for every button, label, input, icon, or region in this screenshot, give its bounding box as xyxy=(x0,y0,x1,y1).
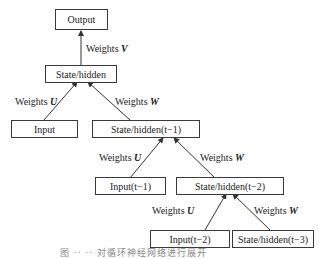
node-state-hidden: State/hidden xyxy=(45,65,117,83)
node-input-t1: Input(t−1) xyxy=(95,177,166,195)
node-state-t3-label: State/hidden(t−3) xyxy=(238,234,308,245)
node-input-t2-label: Input(t−2) xyxy=(169,234,210,245)
edge-label-w-1: Weights W xyxy=(115,96,159,107)
node-state-hidden-t1: State/hidden(t−1) xyxy=(92,120,200,138)
node-input-t1-label: Input(t−1) xyxy=(110,181,151,192)
node-state-t1-label: State/hidden(t−1) xyxy=(111,124,181,135)
edge-label-w-2: Weights W xyxy=(200,152,244,163)
node-state-label: State/hidden xyxy=(56,69,106,80)
edge-label-u-3: Weights U xyxy=(152,205,194,216)
edge-input-t2-to-state-t2 xyxy=(205,194,226,230)
edge-label-v: Weights V xyxy=(86,43,128,54)
figure-caption: 图 ·· ·· 对循环神经网络进行展开 xyxy=(60,246,207,259)
edge-label-w-3: Weights W xyxy=(254,205,298,216)
edge-label-u-1: Weights U xyxy=(15,96,57,107)
edge-label-u-2: Weights U xyxy=(99,152,141,163)
node-input-label: Input xyxy=(34,124,55,135)
node-input: Input xyxy=(11,120,78,138)
node-state-hidden-t3: State/hidden(t−3) xyxy=(232,230,314,248)
node-state-hidden-t2: State/hidden(t−2) xyxy=(176,177,284,195)
node-state-t2-label: State/hidden(t−2) xyxy=(195,181,265,192)
node-output-label: Output xyxy=(68,14,96,25)
node-output: Output xyxy=(55,9,108,30)
